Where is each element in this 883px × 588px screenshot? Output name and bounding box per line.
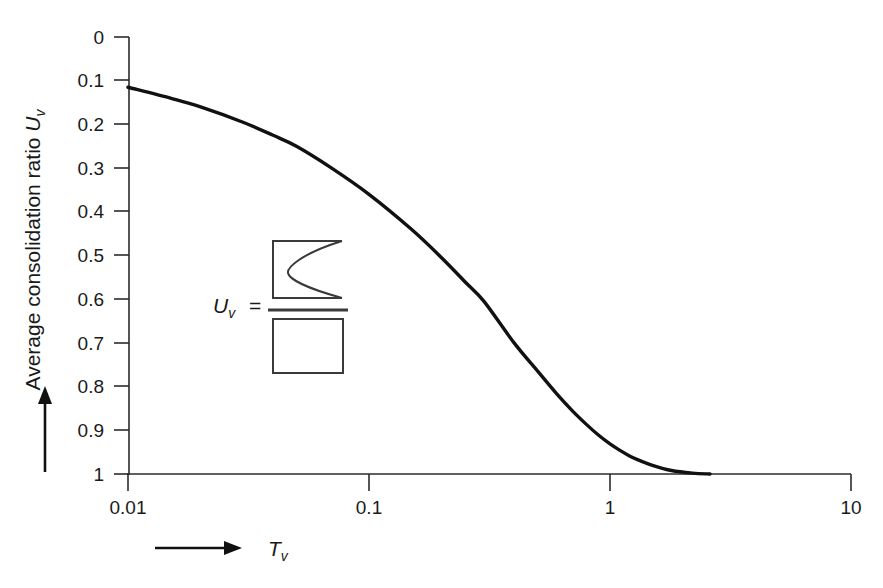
y-tick-label-0: 0 [93,27,104,48]
y-tick-label-3: 0.3 [78,158,104,179]
y-tick-label-5: 0.5 [78,245,104,266]
inset-formula-equals: = [249,294,261,317]
x-axis-title-subscript: v [281,548,289,564]
y-tick-label-7: 0.7 [78,333,104,354]
x-tick-label-2: 1 [605,497,616,518]
y-tick-label-6: 0.6 [78,289,104,310]
consolidation-curve [128,87,710,474]
consolidation-ratio-chart: 0 0.1 0.2 0.3 0.4 0.5 0.6 0.7 0.8 0.9 1 … [0,0,883,588]
y-tick-label-2: 0.2 [78,114,104,135]
x-axis-direction-arrow [155,541,242,555]
isochrone-curve-shape [288,241,342,298]
inset-numerator-isochrone [273,241,342,298]
inset-formula-subscript: v [228,305,236,321]
y-axis-ticks [114,37,129,474]
inset-denominator-rectangle [273,319,343,373]
x-axis-title: Tv [268,537,289,564]
y-axis-title-symbol: U [21,116,44,132]
y-tick-label-1: 0.1 [78,70,104,91]
x-axis-ticks [128,474,851,491]
y-axis-title-text: Average consolidation ratio [21,132,44,391]
chart-figure: 0 0.1 0.2 0.3 0.4 0.5 0.6 0.7 0.8 0.9 1 … [0,0,883,588]
x-arrow-head-icon [224,541,242,555]
y-tick-label-4: 0.4 [78,201,105,222]
x-axis-tick-labels: 0.01 0.1 1 10 [110,497,862,518]
inset-formula: Uv = [213,241,348,373]
isochrone-bracket-shape [273,241,342,298]
inset-formula-label: Uv [213,294,236,321]
y-tick-label-10: 1 [93,464,104,485]
x-tick-label-3: 10 [840,497,861,518]
y-tick-label-9: 0.9 [78,420,104,441]
x-tick-label-0: 0.01 [110,497,147,518]
y-axis-title-subscript: v [32,109,48,117]
inset-formula-symbol: U [213,294,229,317]
y-axis-title-group: Average consolidation ratio Uv [21,109,48,391]
y-axis-title: Average consolidation ratio Uv [21,109,48,391]
y-axis-tick-labels: 0 0.1 0.2 0.3 0.4 0.5 0.6 0.7 0.8 0.9 1 [78,27,105,485]
y-axis-direction-arrow [38,386,52,472]
axes-group [127,37,851,475]
y-tick-label-8: 0.8 [78,376,104,397]
x-tick-label-1: 0.1 [356,497,382,518]
